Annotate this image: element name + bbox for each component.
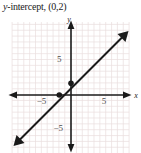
point-y-intercept (68, 81, 74, 87)
caption-rest: -intercept, (0,2) (7, 1, 66, 12)
x-axis-label: x (133, 91, 138, 100)
graph-figure: y-intercept, (0,2) (0, 0, 141, 153)
graph-svg: 5 −5 −5 5 y x (0, 16, 141, 153)
y-tick-label-positive: 5 (57, 54, 62, 64)
y-axis-label: y (66, 16, 71, 24)
figure-caption: y-intercept, (0,2) (3, 1, 66, 13)
y-tick-label-negative: −5 (53, 123, 63, 133)
x-tick-label-negative: −5 (37, 96, 47, 106)
coordinate-plane: 5 −5 −5 5 y x (0, 16, 141, 153)
x-tick-label-positive: 5 (102, 96, 107, 106)
x-axis (9, 92, 132, 99)
point-x-intercept (57, 92, 63, 98)
